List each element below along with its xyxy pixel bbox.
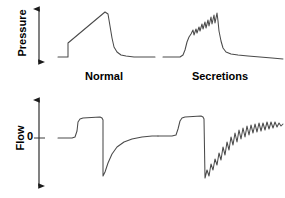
pressure-axis-label: Pressure — [16, 3, 28, 63]
pressure-secretions-trace — [163, 13, 283, 59]
flow-normal-trace — [58, 117, 158, 176]
trace-group — [58, 12, 283, 178]
flow-axis-arrow — [34, 100, 45, 186]
pressure-normal-trace — [58, 12, 155, 57]
flow-axis-label: Flow — [14, 118, 26, 158]
waveform-canvas — [0, 0, 285, 198]
panel-label-normal: Normal — [62, 70, 146, 82]
panel-label-secretions: Secretions — [168, 70, 272, 82]
flow-zero-label: 0 — [27, 130, 33, 142]
ventilator-waveform-figure: Pressure Flow 0 Normal Secretions — [0, 0, 285, 198]
flow-secretions-trace — [158, 116, 283, 178]
